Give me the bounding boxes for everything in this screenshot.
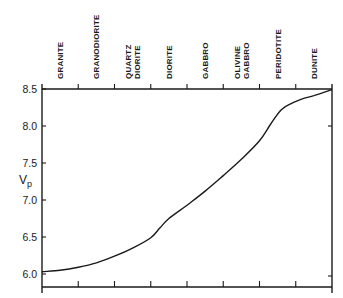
rock-type-label-line: DIORITE xyxy=(165,45,174,79)
vp-rock-chart: 6.06.57.07.58.08.5 GRANITEGRANODIORITEQU… xyxy=(0,0,343,298)
rock-type-label: OLIVINEGABBRO xyxy=(233,42,251,79)
series xyxy=(42,90,332,272)
y-axis-label-main: V xyxy=(19,173,27,187)
y-axis-label: Vp xyxy=(19,173,32,189)
rock-type-label: QUARTZDIORITE xyxy=(124,44,142,79)
y-axis-label-subscript: p xyxy=(27,179,32,189)
y-tick-label: 8.5 xyxy=(22,83,37,95)
x-ticks xyxy=(78,84,296,287)
y-tick-label: 8.0 xyxy=(22,120,37,132)
rock-type-label-line: GABBRO xyxy=(201,42,210,79)
axes xyxy=(42,84,332,293)
rock-type-label-line: GABBRO xyxy=(242,42,251,79)
rock-type-label: GRANODIORITE xyxy=(92,14,101,79)
rock-type-label: DIORITE xyxy=(165,45,174,79)
rock-type-label: GABBRO xyxy=(201,42,210,79)
rock-type-label: DUNITE xyxy=(310,48,319,79)
rock-type-label-line: GRANITE xyxy=(56,41,65,79)
y-tick-label: 6.5 xyxy=(22,231,37,243)
y-ticks: 6.06.57.07.58.08.5 xyxy=(22,83,332,280)
rock-type-label-line: PERIDOTITE xyxy=(274,29,283,79)
rock-type-label: GRANITE xyxy=(56,41,65,79)
y-tick-label: 7.5 xyxy=(22,157,37,169)
y-tick-label: 7.0 xyxy=(22,194,37,206)
rock-labels: GRANITEGRANODIORITEQUARTZDIORITEDIORITEG… xyxy=(56,14,319,79)
y-tick-label: 6.0 xyxy=(22,268,37,280)
rock-type-label: PERIDOTITE xyxy=(274,29,283,79)
vp-curve xyxy=(42,90,332,272)
rock-type-label-line: DUNITE xyxy=(310,48,319,79)
rock-type-label-line: GRANODIORITE xyxy=(92,14,101,79)
rock-type-label-line: DIORITE xyxy=(133,45,142,79)
